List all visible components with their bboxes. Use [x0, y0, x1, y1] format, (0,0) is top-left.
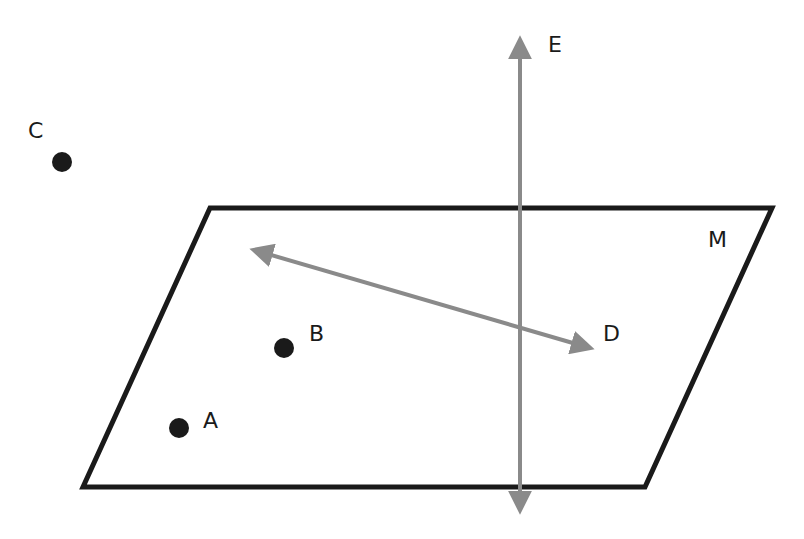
point-b [274, 338, 294, 358]
point-label-a: A [203, 408, 218, 433]
plane-label-m: M [708, 227, 727, 252]
point-a [169, 418, 189, 438]
line-d [254, 250, 590, 348]
line-label-d: D [603, 321, 620, 346]
line-label-e: E [548, 32, 562, 57]
point-c [52, 152, 72, 172]
geometry-diagram: M E D C B A [0, 0, 804, 539]
plane-m [83, 208, 772, 487]
point-label-b: B [309, 321, 324, 346]
point-label-c: C [28, 118, 43, 143]
